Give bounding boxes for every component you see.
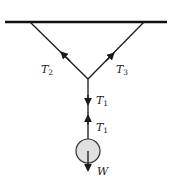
arrow-t2-icon — [63, 54, 70, 61]
tension-diagram: T2 T3 T1 T1 W — [0, 0, 177, 185]
label-t2: T2 — [41, 63, 53, 77]
arrow-t3-icon — [106, 55, 112, 61]
rope-t2 — [30, 22, 88, 79]
label-t1-upper: T1 — [96, 94, 108, 108]
label-t3: T3 — [116, 63, 128, 77]
label-t1-lower: T1 — [96, 121, 108, 135]
label-w: W — [97, 165, 110, 178]
